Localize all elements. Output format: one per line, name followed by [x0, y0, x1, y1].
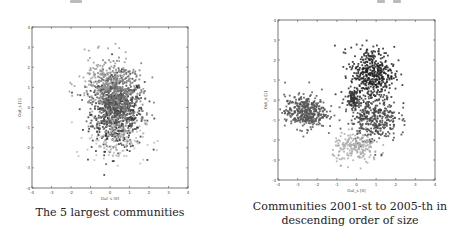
- y-tick-label: -2: [272, 138, 276, 143]
- y-tick-label: -4: [272, 178, 276, 183]
- y-tick-label: -3: [26, 165, 30, 170]
- x-tick-label: -3: [50, 190, 54, 195]
- caption-right: Communities 2001-st to 2005-th in descen…: [250, 200, 450, 228]
- x-tick-label: -1: [335, 182, 339, 187]
- x-tick-label: 2: [148, 190, 151, 195]
- y-tick-label: -1: [272, 118, 276, 123]
- x-tick-label: 3: [167, 190, 170, 195]
- caption-right-line2: descending order of size: [250, 214, 450, 228]
- y-tick-label: -2: [26, 145, 30, 150]
- x-tick-label: -4: [30, 190, 34, 195]
- x-tick-label: -2: [69, 190, 73, 195]
- caption-left-text: The 5 largest communities: [36, 206, 185, 219]
- x-tick-label: 4: [434, 182, 437, 187]
- y-axis-label: Out_s [1]: [17, 98, 22, 117]
- scatter-panel-left: -4-3-2-101234-4-3-2-101234Out_s [0]Out_s…: [0, 0, 227, 200]
- x-tick-label: -2: [315, 182, 319, 187]
- x-tick-label: 0: [109, 190, 112, 195]
- x-tick-label: 2: [394, 182, 397, 187]
- x-tick-label: 3: [414, 182, 417, 187]
- y-tick-label: 1: [27, 85, 30, 90]
- x-tick-label: -1: [89, 190, 93, 195]
- scatter-points: [279, 40, 405, 170]
- x-axis-label: Out_s [0]: [347, 188, 366, 193]
- y-tick-label: -3: [272, 158, 276, 163]
- y-tick-label: 3: [273, 38, 276, 43]
- y-tick-label: 2: [273, 58, 276, 63]
- x-tick-label: 1: [128, 190, 131, 195]
- x-tick-label: -3: [296, 182, 300, 187]
- y-tick-label: 2: [27, 65, 30, 70]
- scatter-plot-right: -4-3-2-101234-4-3-2-101234Out_s [0]Out_s…: [227, 0, 454, 200]
- y-tick-label: 4: [273, 18, 276, 23]
- x-axis-label: Out_s [0]: [101, 196, 120, 200]
- y-tick-label: 4: [27, 25, 30, 30]
- x-tick-label: -4: [276, 182, 280, 187]
- caption-left: The 5 largest communities: [20, 206, 200, 220]
- y-tick-label: -1: [26, 125, 30, 130]
- x-tick-label: 1: [375, 182, 378, 187]
- y-tick-label: 1: [273, 78, 276, 83]
- y-tick-label: -4: [26, 186, 30, 191]
- y-axis-label: Out_s [1]: [263, 90, 268, 109]
- x-tick-label: 4: [187, 190, 190, 195]
- x-tick-label: 0: [355, 182, 358, 187]
- scatter-panel-right: -4-3-2-101234-4-3-2-101234Out_s [0]Out_s…: [227, 0, 454, 200]
- y-tick-label: 3: [27, 45, 30, 50]
- series-community-2002: [279, 82, 340, 138]
- y-tick-label: 0: [273, 98, 276, 103]
- scatter-plot-left: -4-3-2-101234-4-3-2-101234Out_s [0]Out_s…: [0, 0, 227, 200]
- y-tick-label: 0: [27, 105, 30, 110]
- scatter-points: [69, 43, 159, 176]
- caption-right-line1: Communities 2001-st to 2005-th in: [250, 200, 450, 214]
